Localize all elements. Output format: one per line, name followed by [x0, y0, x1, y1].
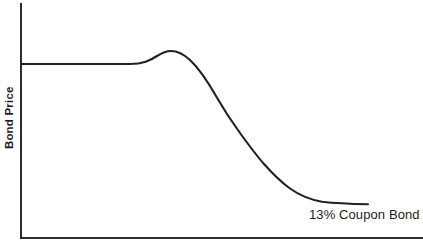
chart-figure: Bond Price 13% Coupon Bond: [0, 0, 423, 244]
series-annotation-label: 13% Coupon Bond: [309, 208, 420, 221]
y-axis-label: Bond Price: [4, 78, 16, 158]
